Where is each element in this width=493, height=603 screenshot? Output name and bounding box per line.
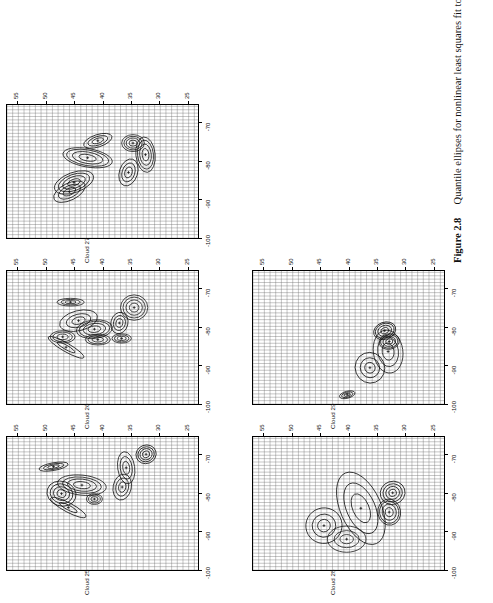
- x-tick-label: -90: [205, 366, 211, 375]
- y-tick: [188, 433, 189, 436]
- y-tick: [263, 433, 264, 436]
- plot-area: [6, 104, 199, 239]
- x-tick-label: -100: [205, 235, 211, 247]
- x-tick-label: -80: [451, 327, 457, 336]
- x-tick: [199, 531, 202, 532]
- page-frame: Cloud 2525303540455055-100-90-80-70Cloud…: [0, 0, 493, 603]
- x-tick-label: -100: [451, 401, 457, 413]
- y-tick: [103, 267, 104, 270]
- panel-cloud-25: Cloud 2525303540455055-100-90-80-70: [6, 430, 239, 595]
- y-tick: [159, 433, 160, 436]
- x-tick: [199, 493, 202, 494]
- panel-title: Cloud 29: [329, 403, 336, 429]
- y-tick: [17, 267, 18, 270]
- plot-area: [252, 436, 445, 571]
- panel-cloud-27: Cloud 2725303540455055-100-90-80-70: [6, 98, 239, 263]
- x-tick: [445, 493, 448, 494]
- panel-title: Cloud 27: [83, 237, 90, 263]
- y-tick: [17, 101, 18, 104]
- plot-area: [6, 436, 199, 571]
- x-tick-label: -80: [205, 493, 211, 502]
- x-tick: [445, 454, 448, 455]
- y-tick: [405, 433, 406, 436]
- x-tick-label: -70: [205, 455, 211, 464]
- y-tick: [46, 267, 47, 270]
- y-tick: [292, 267, 293, 270]
- x-tick-label: -90: [205, 200, 211, 209]
- y-tick: [74, 433, 75, 436]
- y-tick: [349, 433, 350, 436]
- y-tick: [188, 267, 189, 270]
- y-tick: [159, 101, 160, 104]
- x-tick-label: -100: [205, 401, 211, 413]
- y-tick-label: 40: [345, 258, 351, 265]
- y-tick: [188, 101, 189, 104]
- y-tick: [74, 101, 75, 104]
- y-tick: [320, 267, 321, 270]
- x-tick: [199, 327, 202, 328]
- y-tick: [377, 433, 378, 436]
- plot-area: [252, 270, 445, 405]
- y-tick-label: 40: [99, 92, 105, 99]
- y-tick: [131, 433, 132, 436]
- y-tick-label: 45: [316, 258, 322, 265]
- y-tick: [131, 267, 132, 270]
- figure-caption: Figure 2.8 Quantile ellipses for nonline…: [452, 0, 463, 263]
- x-tick: [199, 454, 202, 455]
- panel-title: Cloud 26: [83, 403, 90, 429]
- y-tick: [377, 267, 378, 270]
- y-tick-label: 30: [401, 258, 407, 265]
- y-tick: [131, 101, 132, 104]
- x-tick-label: -70: [451, 455, 457, 464]
- quantile-ellipses: [7, 436, 199, 570]
- x-tick-label: -70: [451, 289, 457, 298]
- y-tick: [46, 101, 47, 104]
- y-tick-label: 55: [259, 258, 265, 265]
- y-tick: [159, 267, 160, 270]
- y-tick: [46, 433, 47, 436]
- x-tick-label: -100: [205, 567, 211, 579]
- x-tick-label: -100: [451, 567, 457, 579]
- x-tick: [445, 288, 448, 289]
- x-tick-label: -80: [451, 493, 457, 502]
- x-tick-label: -90: [205, 532, 211, 541]
- x-tick: [199, 570, 202, 571]
- x-tick: [199, 288, 202, 289]
- x-tick: [199, 404, 202, 405]
- y-tick-label: 25: [430, 258, 436, 265]
- x-tick: [445, 570, 448, 571]
- y-tick-label: 45: [70, 92, 76, 99]
- panel-title: Cloud 25: [83, 569, 90, 595]
- quantile-ellipses: [253, 436, 445, 570]
- y-tick-label: 55: [13, 92, 19, 99]
- x-tick: [445, 531, 448, 532]
- x-tick-label: -90: [451, 366, 457, 375]
- figure-page: Cloud 2525303540455055-100-90-80-70Cloud…: [0, 0, 493, 603]
- x-tick: [199, 365, 202, 366]
- x-tick: [199, 161, 202, 162]
- y-tick-label: 35: [373, 258, 379, 265]
- quantile-ellipses: [253, 270, 445, 404]
- y-tick: [320, 433, 321, 436]
- x-tick: [199, 199, 202, 200]
- x-tick: [199, 238, 202, 239]
- figure-caption-text: Quantile ellipses for nonlinear least sq…: [452, 0, 463, 204]
- y-tick-label: 30: [155, 92, 161, 99]
- y-tick: [103, 101, 104, 104]
- quantile-ellipses: [7, 104, 199, 238]
- y-tick: [17, 433, 18, 436]
- panel-cloud-28: Cloud 2825303540455055-100-90-80-70: [252, 430, 485, 595]
- figure-number: Figure 2.8: [452, 218, 463, 263]
- x-tick-label: -70: [205, 123, 211, 132]
- y-tick: [292, 433, 293, 436]
- x-tick-label: -90: [451, 532, 457, 541]
- panel-grid: Cloud 2525303540455055-100-90-80-70Cloud…: [6, 95, 486, 595]
- plot-area: [6, 270, 199, 405]
- x-tick-label: -70: [205, 289, 211, 298]
- y-tick: [103, 433, 104, 436]
- y-tick: [434, 267, 435, 270]
- y-tick-label: 25: [184, 92, 190, 99]
- y-tick: [74, 267, 75, 270]
- y-tick-label: 35: [127, 92, 133, 99]
- y-tick-label: 50: [288, 258, 294, 265]
